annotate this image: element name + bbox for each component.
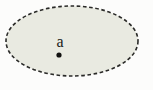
neighborhood-ellipse	[6, 6, 138, 76]
point-label-a: a	[56, 33, 63, 50]
point-marker-a	[56, 52, 61, 57]
figure-canvas: a	[0, 0, 153, 90]
diagram-svg: a	[0, 0, 153, 90]
